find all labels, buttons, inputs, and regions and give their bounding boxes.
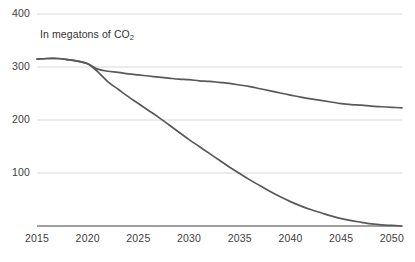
series-paths: [37, 58, 402, 226]
subtitle-subscript: 2: [130, 33, 134, 42]
chart-container: In megatons of CO2 400300200100 20152020…: [0, 0, 415, 262]
series-line-decarbonization: [37, 58, 402, 226]
x-axis-tick-2035: 2035: [220, 232, 260, 244]
y-axis-tick-200: 200: [2, 113, 30, 125]
chart-subtitle: In megatons of CO2: [40, 28, 134, 40]
x-axis-tick-2040: 2040: [270, 232, 310, 244]
x-axis-tick-2050: 2050: [372, 232, 412, 244]
y-axis-tick-400: 400: [2, 7, 30, 19]
x-axis-tick-2030: 2030: [169, 232, 209, 244]
x-axis-tick-2045: 2045: [321, 232, 361, 244]
y-axis-tick-300: 300: [2, 60, 30, 72]
subtitle-text: In megatons of CO: [40, 28, 130, 40]
x-axis-tick-2025: 2025: [118, 232, 158, 244]
x-axis-tick-2015: 2015: [17, 232, 57, 244]
y-axis-tick-100: 100: [2, 166, 30, 178]
x-axis-tick-2020: 2020: [68, 232, 108, 244]
